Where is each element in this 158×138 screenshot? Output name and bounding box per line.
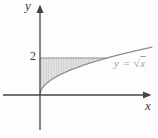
shaded-region [40, 58, 107, 95]
curve-label-prefix: y = [114, 57, 134, 69]
curve-label-radicand: x [140, 57, 145, 69]
y-axis-arrowhead-icon [36, 5, 43, 14]
sqrt-curve-figure: y x 2 y = √x [0, 0, 158, 138]
plot-canvas [0, 0, 158, 138]
y-axis-label: y [25, 0, 31, 12]
x-axis-label: x [145, 99, 151, 112]
y-tick-label-2: 2 [22, 50, 36, 62]
curve-equation-label: y = √x [114, 58, 146, 69]
